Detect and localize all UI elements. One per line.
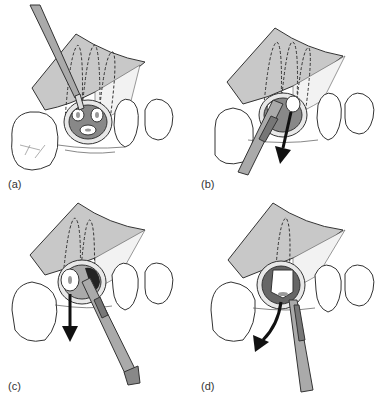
panel-a: (a): [0, 0, 193, 200]
panel-a-illustration: [0, 0, 193, 200]
panel-label-b: (b): [201, 178, 214, 190]
panel-label-c: (c): [8, 380, 21, 392]
panel-d-illustration: [193, 200, 386, 403]
panel-label-a: (a): [8, 178, 21, 190]
panel-c-illustration: [0, 200, 193, 403]
panel-d: (d): [193, 200, 386, 403]
panel-b-illustration: [193, 0, 386, 200]
panel-c: (c): [0, 200, 193, 403]
panel-label-d: (d): [201, 380, 214, 392]
panel-b: (b): [193, 0, 386, 200]
